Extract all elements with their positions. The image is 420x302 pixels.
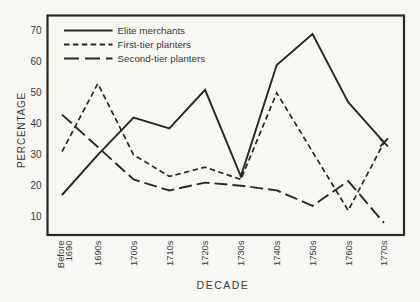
x-tick-label-1760s: 1760s: [343, 240, 354, 266]
y-tick-label-30: 30: [30, 149, 42, 160]
y-tick-label-70: 70: [30, 25, 42, 36]
plot-frame: [48, 16, 405, 236]
series-line-first-tier-planters: [62, 84, 384, 211]
x-tick-label-1690s: 1690s: [92, 240, 103, 266]
legend-label-first-tier-planters: First-tier planters: [118, 39, 192, 50]
x-tick-label-1750s: 1750s: [307, 240, 318, 266]
x-tick-label-1720s: 1720s: [199, 240, 210, 266]
y-tick-label-10: 10: [30, 211, 42, 222]
x-axis-title: DECADE: [197, 279, 250, 291]
x-tick-label-before-1690-1: 1690: [63, 241, 74, 262]
y-tick-label-50: 50: [30, 87, 42, 98]
line-chart: 10203040506070Before16901690s1700s1710s1…: [0, 0, 420, 302]
x-tick-label-1700s: 1700s: [128, 240, 139, 266]
legend-label-second-tier-planters: Second-tier planters: [118, 53, 206, 64]
x-tick-label-1710s: 1710s: [164, 240, 175, 266]
figure: 10203040506070Before16901690s1700s1710s1…: [0, 0, 420, 302]
y-tick-label-20: 20: [30, 180, 42, 191]
y-tick-label-60: 60: [30, 56, 42, 67]
end-x-marker-first-tier-planters: [380, 139, 388, 147]
y-axis-title: PERCENTAGE: [16, 92, 27, 168]
legend-label-elite-merchants: Elite merchants: [118, 25, 186, 36]
x-tick-label-1730s: 1730s: [235, 240, 246, 266]
x-tick-label-1740s: 1740s: [271, 240, 282, 266]
y-tick-label-40: 40: [30, 118, 42, 129]
x-tick-label-1770s: 1770s: [378, 240, 389, 266]
